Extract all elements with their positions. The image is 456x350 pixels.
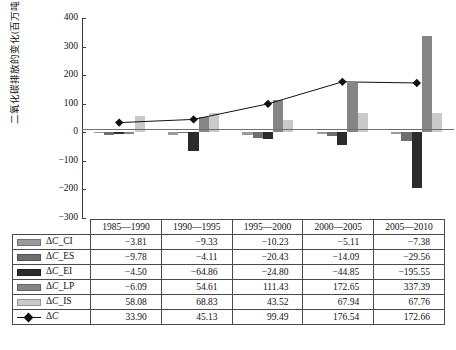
- legend-swatch-icon: [17, 269, 41, 276]
- y-tick-mark: [82, 75, 86, 76]
- y-tick-label: 300: [44, 42, 78, 52]
- table-value-cell: 172.65: [303, 280, 374, 295]
- y-tick-mark: [82, 104, 86, 105]
- bar-ces: [104, 132, 114, 135]
- legend-swatch-icon: [17, 299, 41, 306]
- table-row: ΔC_LP−6.0954.61111.43172.65337.39: [13, 280, 445, 295]
- table-row: ΔC33.9045.1399.49176.54172.66: [13, 310, 445, 325]
- table-header: 1985—19901990—19951995—20002000—20052005…: [13, 220, 445, 235]
- table-value-cell: 67.94: [303, 295, 374, 310]
- legend-cell: ΔC_ES: [13, 250, 91, 265]
- table-column-header: 2005—2010: [374, 220, 445, 235]
- table-value-cell: −4.11: [161, 250, 232, 265]
- y-tick-mark: [82, 161, 86, 162]
- table-value-cell: 54.61: [161, 280, 232, 295]
- y-axis-tick-labels: 4003002001000−100−200−300: [42, 0, 78, 220]
- legend-cell: ΔC_IS: [13, 295, 91, 310]
- y-tick-label: 400: [44, 13, 78, 23]
- table-value-cell: 172.66: [374, 310, 445, 325]
- legend-swatch-icon: [17, 284, 41, 291]
- data-table: 1985—19901990—19951995—20002000—20052005…: [12, 219, 445, 325]
- y-tick-mark: [82, 132, 86, 133]
- table-value-cell: 99.49: [232, 310, 303, 325]
- bar-cci: [168, 132, 178, 135]
- bar-clp: [124, 132, 134, 134]
- bar-cci: [242, 132, 252, 135]
- bar-group: [156, 18, 230, 218]
- table-row: ΔC_IS58.0868.8343.5267.9467.76: [13, 295, 445, 310]
- table-corner-cell: [13, 220, 91, 235]
- legend-swatch-icon: [17, 254, 41, 261]
- data-table-wrapper: 1985—19901990—19951995—20002000—20052005…: [12, 219, 444, 325]
- table-value-cell: −5.11: [303, 235, 374, 250]
- bar-clp: [422, 36, 432, 132]
- table-value-cell: −44.85: [303, 265, 374, 280]
- bar-cci: [94, 132, 104, 133]
- table-value-cell: −20.43: [232, 250, 303, 265]
- zero-baseline: [82, 129, 454, 130]
- chart-plot-area: 二氧化碳排放的变化(百万吨) 4003002001000−100−200−300: [0, 0, 456, 220]
- table-value-cell: −4.50: [91, 265, 162, 280]
- series-label: ΔC_LP: [46, 282, 74, 292]
- table-value-cell: −64.86: [161, 265, 232, 280]
- series-label: ΔC_IS: [46, 297, 72, 307]
- table-value-cell: −24.80: [232, 265, 303, 280]
- table-column-header: 1995—2000: [232, 220, 303, 235]
- table-value-cell: 58.08: [91, 295, 162, 310]
- table-value-cell: −6.09: [91, 280, 162, 295]
- table-value-cell: 68.83: [161, 295, 232, 310]
- table-value-cell: 33.90: [91, 310, 162, 325]
- y-tick-label: −100: [44, 156, 78, 166]
- bar-group: [305, 18, 379, 218]
- table-value-cell: 176.54: [303, 310, 374, 325]
- table-value-cell: −9.33: [161, 235, 232, 250]
- legend-cell: ΔC: [13, 310, 91, 325]
- table-header-row: 1985—19901990—19951995—20002000—20052005…: [13, 220, 445, 235]
- bar-clp: [273, 100, 283, 132]
- table-value-cell: −3.81: [91, 235, 162, 250]
- series-label: ΔC: [46, 312, 58, 322]
- table-column-header: 1985—1990: [91, 220, 162, 235]
- bar-cei: [188, 132, 198, 151]
- series-label: ΔC_ES: [46, 252, 74, 262]
- legend-cell: ΔC_LP: [13, 280, 91, 295]
- table-row: ΔC_EI−4.50−64.86−24.80−44.85−195.55: [13, 265, 445, 280]
- bar-group: [231, 18, 305, 218]
- table-body: ΔC_CI−3.81−9.33−10.23−5.11−7.38ΔC_ES−9.7…: [13, 235, 445, 325]
- legend-cell: ΔC_EI: [13, 265, 91, 280]
- table-value-cell: −195.55: [374, 265, 445, 280]
- bar-cci: [391, 132, 401, 134]
- table-value-cell: 111.43: [232, 280, 303, 295]
- bar-group: [380, 18, 454, 218]
- table-value-cell: 43.52: [232, 295, 303, 310]
- bar-ces: [327, 132, 337, 136]
- table-value-cell: 45.13: [161, 310, 232, 325]
- bar-ces: [178, 132, 188, 133]
- table-value-cell: −14.09: [303, 250, 374, 265]
- table-value-cell: −10.23: [232, 235, 303, 250]
- series-label: ΔC_CI: [46, 237, 73, 247]
- table-value-cell: −29.56: [374, 250, 445, 265]
- bar-ces: [253, 132, 263, 138]
- bar-clp: [347, 83, 357, 132]
- bar-cei: [412, 132, 422, 188]
- y-tick-mark: [82, 189, 86, 190]
- y-tick-label: 0: [44, 127, 78, 137]
- table-row: ΔC_CI−3.81−9.33−10.23−5.11−7.38: [13, 235, 445, 250]
- table-value-cell: 67.76: [374, 295, 445, 310]
- y-tick-mark: [82, 18, 86, 19]
- y-tick-mark: [82, 47, 86, 48]
- y-tick-label: 200: [44, 70, 78, 80]
- table-value-cell: −7.38: [374, 235, 445, 250]
- y-tick-label: 100: [44, 99, 78, 109]
- bar-series-layer: [82, 18, 454, 218]
- bar-ces: [401, 132, 411, 140]
- bar-cei: [114, 132, 124, 133]
- bar-cei: [263, 132, 273, 139]
- legend-swatch-icon: [17, 239, 41, 246]
- table-row: ΔC_ES−9.78−4.11−20.43−14.09−29.56: [13, 250, 445, 265]
- y-axis-title: 二氧化碳排放的变化(百万吨): [10, 0, 20, 146]
- table-column-header: 2000—2005: [303, 220, 374, 235]
- bar-cci: [317, 132, 327, 133]
- bar-cei: [337, 132, 347, 145]
